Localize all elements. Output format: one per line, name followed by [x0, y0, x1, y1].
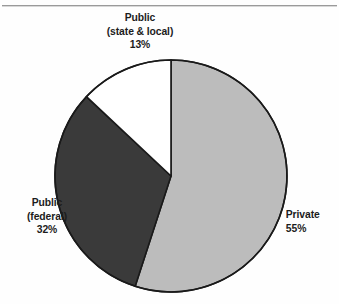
label-private-line1: Private	[286, 208, 336, 222]
label-federal-value: 32%	[5, 223, 90, 237]
label-state-local-value: 13%	[70, 38, 210, 52]
pie-slices	[55, 60, 287, 292]
label-public-federal: Public (federal) 32%	[5, 196, 90, 237]
label-federal-line2: (federal)	[5, 210, 90, 224]
label-private-value: 55%	[286, 222, 336, 236]
label-state-local-line1: Public	[70, 11, 210, 25]
label-private: Private 55%	[286, 208, 336, 235]
pie-chart-figure: Public (state & local) 13% Public (feder…	[0, 0, 339, 304]
label-state-local-line2: (state & local)	[70, 25, 210, 39]
label-federal-line1: Public	[5, 196, 90, 210]
label-public-state-local: Public (state & local) 13%	[70, 11, 210, 52]
